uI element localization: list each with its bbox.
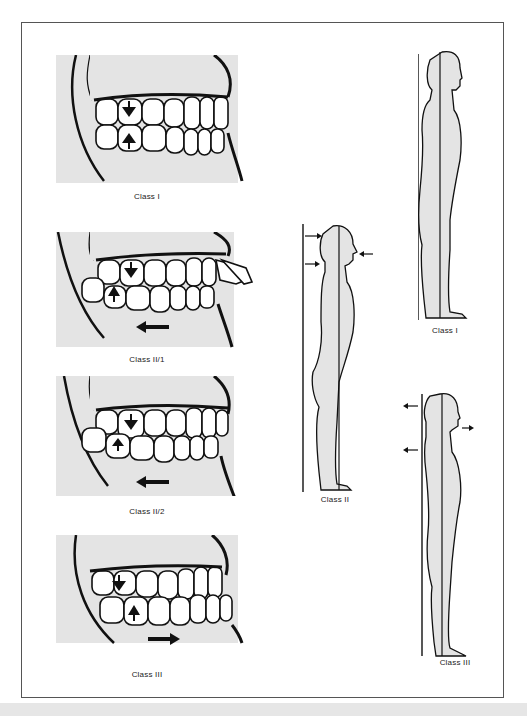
dental-caption-class-2-1: Class II/1	[56, 355, 238, 364]
dental-caption-class-2-2: Class II/2	[56, 507, 238, 516]
posture-figure-class-1	[418, 50, 488, 322]
body-silhouette	[418, 50, 488, 322]
body-silhouette	[295, 222, 375, 492]
dental-panel-class-2-2	[56, 376, 246, 496]
posture-caption-class-3: Class III	[420, 658, 490, 667]
dental-panel-class-2-1	[56, 232, 256, 352]
occlusion-illustration	[56, 55, 246, 185]
posture-figure-class-3	[400, 392, 500, 662]
occlusion-illustration	[56, 535, 246, 645]
posture-caption-class-1: Class I	[410, 326, 480, 335]
dental-panel-class-1	[56, 55, 246, 185]
occlusion-illustration	[56, 232, 256, 352]
dental-panel-class-3	[56, 535, 246, 645]
dental-caption-class-3: Class III	[56, 670, 238, 679]
occlusion-illustration	[56, 376, 246, 496]
dental-caption-class-1: Class I	[56, 192, 238, 201]
posture-caption-class-2: Class II	[295, 495, 375, 504]
bottom-gray-band	[0, 703, 527, 716]
posture-figure-class-2	[295, 222, 375, 492]
body-silhouette	[400, 392, 500, 662]
